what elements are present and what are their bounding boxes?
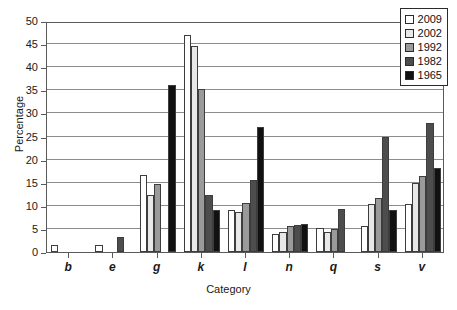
bar — [361, 226, 368, 252]
legend-swatch-icon — [405, 29, 414, 38]
bar — [368, 204, 375, 252]
bar — [198, 89, 205, 252]
x-tick-label: g — [137, 260, 177, 274]
bar-group — [357, 23, 401, 252]
legend-label: 1965 — [418, 70, 442, 81]
x-tick-label: s — [358, 260, 398, 274]
y-tick-label: 40 — [4, 62, 38, 73]
x-tick-mark — [68, 253, 69, 258]
y-tick-mark — [41, 22, 46, 23]
y-tick-label: 10 — [4, 201, 38, 212]
y-tick-mark — [41, 184, 46, 185]
x-tick-mark — [422, 253, 423, 258]
bar-group — [47, 23, 91, 252]
legend: 20092002199219821965 — [400, 8, 448, 86]
bar-group — [135, 23, 179, 252]
x-tick-mark — [112, 253, 113, 258]
bar — [426, 123, 433, 252]
legend-swatch-icon — [405, 43, 414, 52]
bar — [375, 198, 382, 252]
y-tick-mark — [41, 161, 46, 162]
bar-chart: Percentage 05101520253035404550 begklnqs… — [0, 0, 457, 310]
bar — [154, 184, 161, 252]
bar-group — [91, 23, 135, 252]
legend-label: 1982 — [418, 56, 442, 67]
bar — [168, 85, 175, 252]
bar-group — [268, 23, 312, 252]
bar — [287, 226, 294, 252]
x-tick-mark — [333, 253, 334, 258]
bar — [235, 212, 242, 252]
bar — [316, 228, 323, 252]
bar — [213, 210, 220, 252]
bar — [331, 229, 338, 252]
x-tick-mark — [378, 253, 379, 258]
bar-group — [224, 23, 268, 252]
bar — [250, 180, 257, 252]
bar — [434, 168, 441, 252]
bar-group — [312, 23, 356, 252]
x-tick-label: q — [313, 260, 353, 274]
y-tick-label: 50 — [4, 16, 38, 27]
bar — [419, 176, 426, 252]
bar — [205, 195, 212, 252]
bar — [389, 210, 396, 252]
bar — [279, 232, 286, 252]
bar — [191, 46, 198, 252]
legend-label: 1992 — [418, 42, 442, 53]
bar — [184, 35, 191, 252]
x-tick-mark — [245, 253, 246, 258]
bar — [257, 127, 264, 252]
legend-item: 1982 — [405, 54, 442, 68]
bar — [51, 245, 58, 252]
bar-group — [180, 23, 224, 252]
y-tick-mark — [41, 68, 46, 69]
bar — [324, 232, 331, 252]
x-tick-label: n — [269, 260, 309, 274]
x-tick-mark — [289, 253, 290, 258]
legend-item: 2009 — [405, 12, 442, 26]
bar — [405, 204, 412, 252]
bar — [147, 195, 154, 252]
bar — [242, 203, 249, 252]
y-tick-label: 30 — [4, 108, 38, 119]
y-tick-label: 25 — [4, 132, 38, 143]
x-tick-label: e — [92, 260, 132, 274]
bar — [338, 209, 345, 252]
x-tick-label: v — [402, 260, 442, 274]
y-tick-mark — [41, 207, 46, 208]
legend-swatch-icon — [405, 15, 414, 24]
y-tick-label: 20 — [4, 155, 38, 166]
y-tick-mark — [41, 45, 46, 46]
y-tick-label: 15 — [4, 178, 38, 189]
bar — [301, 224, 308, 252]
bar — [272, 234, 279, 252]
x-tick-label: b — [48, 260, 88, 274]
bar — [382, 137, 389, 252]
y-tick-label: 45 — [4, 39, 38, 50]
legend-item: 2002 — [405, 26, 442, 40]
bar — [95, 245, 102, 252]
bar — [140, 175, 147, 252]
legend-item: 1992 — [405, 40, 442, 54]
bar — [117, 237, 124, 252]
legend-swatch-icon — [405, 71, 414, 80]
x-tick-mark — [157, 253, 158, 258]
y-tick-mark — [41, 230, 46, 231]
x-tick-label: l — [225, 260, 265, 274]
bar — [412, 183, 419, 252]
bar — [294, 225, 301, 252]
legend-label: 2009 — [418, 14, 442, 25]
y-tick-label: 5 — [4, 224, 38, 235]
x-tick-label: k — [181, 260, 221, 274]
y-tick-mark — [41, 253, 46, 254]
legend-label: 2002 — [418, 28, 442, 39]
legend-item: 1965 — [405, 68, 442, 82]
legend-swatch-icon — [405, 57, 414, 66]
y-tick-label: 35 — [4, 85, 38, 96]
plot-area — [46, 22, 444, 253]
bar — [228, 210, 235, 252]
y-tick-mark — [41, 138, 46, 139]
y-tick-label: 0 — [4, 247, 38, 258]
x-axis-title: Category — [0, 283, 457, 295]
